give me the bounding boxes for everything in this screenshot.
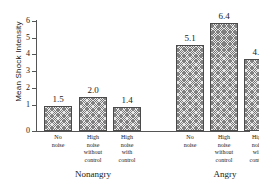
y-tick-label-3: 3 — [20, 67, 30, 75]
bar-value-label-1: 1.5 — [44, 95, 72, 104]
cat-line-1: High — [75, 134, 111, 142]
cat-line-1: High — [109, 134, 145, 142]
y-tick-label-1: 1 — [20, 101, 30, 109]
y-tick-mark-0 — [32, 131, 36, 132]
category-label-angry-no-noise: No noise — [172, 134, 208, 149]
cat-line-2: noise — [109, 142, 145, 150]
bar-value-label-5: 6.4 — [210, 12, 238, 21]
cat-line-2: noise — [172, 142, 208, 150]
y-tick-label-5: 5 — [20, 34, 30, 42]
category-label-nonangry-high-noise-without-control: High noise without control — [75, 134, 111, 164]
bar-angry-high-noise-with-control[interactable] — [244, 59, 259, 131]
bar-value-label-4: 5.1 — [176, 34, 204, 43]
group-label-nonangry: Nonangry — [56, 170, 130, 179]
cat-line-3: with — [109, 149, 145, 157]
bar-angry-no-noise[interactable] — [176, 45, 204, 131]
cat-line-1: No — [172, 134, 208, 142]
cat-line-3: with — [240, 149, 259, 157]
cat-line-4: control — [240, 157, 259, 165]
cat-line-1: High — [240, 134, 259, 142]
cat-line-2: noise — [75, 142, 111, 150]
y-tick-label-6: 6 — [20, 17, 30, 25]
category-label-angry-high-noise-without-control: High noise without control — [206, 134, 242, 164]
category-label-nonangry-high-noise-with-control: High noise with control — [109, 134, 145, 164]
plot-area — [36, 20, 250, 131]
cat-line-2: noise — [40, 142, 76, 150]
y-tick-label-2: 2 — [20, 84, 30, 92]
bar-chart-figure: Mean Shock Intensity 6 5 4 3 2 1 0 1.5 2… — [0, 0, 259, 188]
cat-line-3: without — [206, 149, 242, 157]
bar-nonangry-no-noise[interactable] — [44, 106, 72, 131]
bar-value-label-3: 1.4 — [113, 96, 141, 105]
bar-value-label-6: 4.3 — [244, 48, 259, 57]
cat-line-3: without — [75, 149, 111, 157]
cat-line-4: control — [109, 157, 145, 165]
y-tick-label-4: 4 — [20, 50, 30, 58]
y-tick-label-0: 0 — [20, 127, 30, 135]
category-label-nonangry-no-noise: No noise — [40, 134, 76, 149]
bar-nonangry-high-noise-without-control[interactable] — [79, 97, 107, 131]
cat-line-1: No — [40, 134, 76, 142]
cat-line-2: noise — [240, 142, 259, 150]
category-label-angry-high-noise-with-control: High noise with control — [240, 134, 259, 164]
bar-value-label-2: 2.0 — [79, 86, 107, 95]
bar-nonangry-high-noise-with-control[interactable] — [113, 107, 141, 131]
x-axis-line — [36, 131, 250, 132]
group-label-angry: Angry — [188, 170, 259, 179]
cat-line-4: control — [75, 157, 111, 165]
cat-line-1: High — [206, 134, 242, 142]
cat-line-4: control — [206, 157, 242, 165]
bar-angry-high-noise-without-control[interactable] — [210, 23, 238, 131]
cat-line-2: noise — [206, 142, 242, 150]
